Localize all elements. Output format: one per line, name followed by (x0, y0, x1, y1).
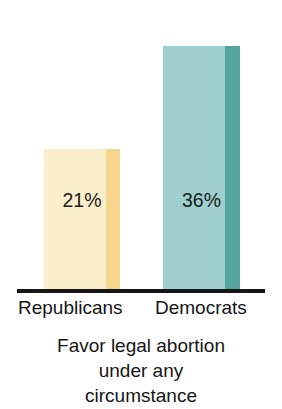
bar-democrats-value-label: 36% (163, 191, 240, 211)
category-label-democrats: Democrats (155, 296, 247, 320)
bar-democrats: 36% (163, 46, 240, 292)
caption-line-1: Favor legal abortion (0, 333, 282, 358)
bar-republicans-value-label: 21% (44, 191, 120, 211)
plot-area: 21% 36% (0, 0, 282, 292)
category-label-republicans: Republicans (18, 296, 123, 320)
bar-republicans-edge (106, 149, 120, 292)
category-axis-labels: Republicans Democrats (0, 296, 282, 322)
chart-caption: Favor legal abortion under any circumsta… (0, 333, 282, 408)
bar-democrats-edge (225, 46, 240, 292)
caption-line-2: under any (0, 358, 282, 383)
bar-chart: 21% 36% Republicans Democrats Favor lega… (0, 0, 282, 409)
caption-line-3: circumstance (0, 383, 282, 408)
bar-republicans: 21% (44, 149, 120, 292)
x-axis-baseline (17, 289, 265, 293)
